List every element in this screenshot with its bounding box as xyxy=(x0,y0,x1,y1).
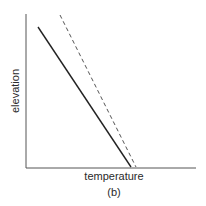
figure-caption: (b) xyxy=(100,186,128,198)
y-axis-label: elevation xyxy=(9,61,21,121)
solid-line xyxy=(38,27,131,167)
x-axis-label: temperature xyxy=(84,170,144,182)
dashed-line xyxy=(60,15,136,167)
